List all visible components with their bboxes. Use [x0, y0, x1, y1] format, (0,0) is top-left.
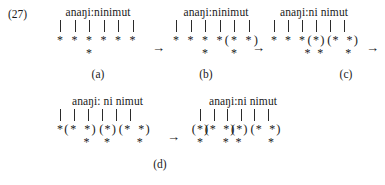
panel-b-bar-row	[166, 19, 266, 34]
association-line	[205, 20, 206, 32]
foot-boundary-close: )	[319, 34, 325, 46]
example-number: (27)	[8, 8, 27, 20]
association-line	[88, 109, 89, 121]
association-line	[200, 109, 201, 121]
association-line	[133, 20, 134, 32]
panel-d-left-bar-row	[50, 108, 165, 123]
grid-asterisk: *	[83, 136, 90, 149]
foot-boundary-close: )	[91, 123, 97, 135]
grid-asterisk: *	[187, 34, 194, 47]
foot-boundary-open: (	[63, 123, 69, 135]
arrow-a-to-b: →	[152, 41, 165, 54]
association-line	[274, 20, 275, 32]
association-line	[241, 109, 242, 121]
association-line	[60, 109, 61, 121]
grid-asterisk: *	[231, 47, 238, 60]
association-line	[176, 20, 177, 32]
grid-asterisk: *	[86, 47, 93, 60]
grid-asterisk: *	[222, 136, 229, 149]
grid-asterisk: *	[100, 34, 107, 47]
grid-asterisk: *	[57, 34, 64, 47]
foot-boundary-close: )	[275, 123, 281, 135]
grid-asterisk: *	[271, 34, 278, 47]
panel-a-grid-row-1: ******	[48, 34, 148, 47]
association-line	[227, 109, 228, 121]
association-line	[316, 20, 317, 32]
panel-a: anaŋi:ninimut ****** *	[48, 6, 148, 60]
grid-asterisk: *	[129, 34, 136, 47]
foot-boundary-close: )	[242, 123, 248, 135]
association-line	[254, 109, 255, 121]
grid-asterisk: *	[124, 123, 131, 136]
panel-b-grid-row-2: **	[166, 47, 266, 60]
panel-c-grid-row-2: ***	[264, 47, 364, 60]
grid-asterisk: *	[209, 123, 216, 136]
foot-boundary-close: )	[145, 123, 151, 135]
grid-asterisk: *	[235, 136, 242, 149]
association-line	[75, 20, 76, 32]
association-line	[268, 109, 269, 121]
panel-d-right: anaŋi:ni nimut (*)(**)(*)(**) ****	[188, 95, 298, 149]
grid-asterisk: *	[136, 136, 143, 149]
panel-c-word: anaŋi:ni nimut	[264, 6, 364, 19]
foot-boundary-close: )	[353, 34, 359, 46]
association-line	[102, 109, 103, 121]
association-line	[234, 20, 235, 32]
association-line	[60, 20, 61, 32]
caption-c: (c)	[316, 68, 376, 81]
panel-a-bar-row	[48, 19, 148, 34]
foot-boundary-close: )	[111, 123, 117, 135]
association-line	[302, 20, 303, 32]
grid-asterisk: *	[345, 47, 352, 60]
association-line	[214, 109, 215, 121]
grid-asterisk: *	[267, 136, 274, 149]
association-line	[220, 20, 221, 32]
panel-c-bar-row	[264, 19, 364, 34]
metrical-grid-figure: (27) anaŋi:ninimut ****** * → (a) anaŋi:…	[0, 0, 385, 185]
grid-asterisk: *	[317, 47, 324, 60]
grid-asterisk: *	[103, 136, 110, 149]
association-line	[104, 20, 105, 32]
grid-asterisk: *	[304, 47, 311, 60]
arrow-d-left-to-right: →	[167, 130, 180, 143]
grid-asterisk: *	[115, 34, 122, 47]
panel-a-word: anaŋi:ninimut	[48, 6, 148, 19]
grid-asterisk: *	[285, 34, 292, 47]
grid-asterisk: *	[332, 34, 339, 47]
panel-d-right-bar-row	[188, 108, 298, 123]
panel-b: anaŋi:ninimut ****(**) **	[166, 6, 266, 60]
panel-c: anaŋi:ni nimut ***(*)(**) ***	[264, 6, 364, 60]
panel-d-left: anaŋi: ni nimut *(**)(*)(**) ***	[50, 95, 165, 149]
panel-d-left-word: anaŋi: ni nimut	[50, 95, 165, 108]
caption-b: (b)	[156, 68, 256, 81]
association-line	[330, 20, 331, 32]
panel-d-right-grid-row-2: ****	[188, 136, 298, 149]
caption-a: (a)	[48, 68, 148, 81]
association-line	[130, 109, 131, 121]
panel-d-right-word: anaŋi:ni nimut	[188, 95, 298, 108]
association-line	[89, 20, 90, 32]
grid-asterisk: *	[71, 34, 78, 47]
grid-asterisk: *	[245, 34, 252, 47]
panel-a-grid-row-2: *	[48, 47, 148, 60]
foot-boundary-open: (	[224, 34, 230, 46]
panel-b-word: anaŋi:ninimut	[166, 6, 266, 19]
grid-asterisk: *	[173, 34, 180, 47]
association-line	[288, 20, 289, 32]
caption-d: (d)	[110, 158, 210, 171]
grid-asterisk: *	[197, 136, 204, 149]
grid-asterisk: *	[255, 123, 262, 136]
association-line	[344, 20, 345, 32]
association-line	[118, 20, 119, 32]
panel-d-left-grid-row-2: ***	[50, 136, 165, 149]
grid-asterisk: *	[202, 47, 209, 60]
arrow-c-to-d: →	[366, 41, 379, 54]
association-line	[191, 20, 192, 32]
panel-d-right-grid-row-1: (*)(**)(*)(**)	[188, 123, 298, 136]
association-line	[74, 109, 75, 121]
association-line	[116, 109, 117, 121]
association-line	[249, 20, 250, 32]
grid-asterisk: *	[70, 123, 77, 136]
grid-asterisk: *	[216, 34, 223, 47]
panel-b-grid-row-1: ****(**)	[166, 34, 266, 47]
